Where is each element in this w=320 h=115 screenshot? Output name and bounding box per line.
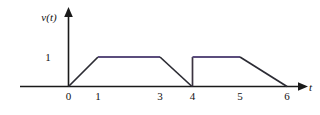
x-tick-label-0: 0 bbox=[66, 90, 72, 102]
segment-ramp-down-3-4 bbox=[160, 57, 192, 87]
y-axis bbox=[64, 7, 73, 87]
graph-canvas: v(t) t 1 0 1 3 4 5 6 bbox=[0, 0, 320, 115]
segment-ramp-down-5-6 bbox=[240, 57, 287, 87]
y-axis-arrow-icon bbox=[64, 7, 73, 17]
curve-first-pulse bbox=[69, 57, 193, 87]
curve-second-pulse bbox=[193, 57, 288, 87]
x-axis bbox=[20, 82, 308, 91]
velocity-graph-figure: v(t) t 1 0 1 3 4 5 6 bbox=[0, 0, 320, 115]
segment-ramp-up-0-1 bbox=[69, 57, 99, 87]
x-tick-label-6: 6 bbox=[284, 90, 290, 102]
x-tick-label-4: 4 bbox=[190, 90, 196, 102]
x-tick-label-5: 5 bbox=[237, 90, 243, 102]
x-axis-label: t bbox=[309, 81, 313, 93]
x-axis-arrow-icon bbox=[298, 82, 308, 91]
x-tick-label-3: 3 bbox=[157, 90, 163, 102]
y-tick-label-1: 1 bbox=[45, 51, 51, 63]
y-axis-label: v(t) bbox=[41, 11, 57, 24]
x-tick-label-1: 1 bbox=[95, 90, 101, 102]
